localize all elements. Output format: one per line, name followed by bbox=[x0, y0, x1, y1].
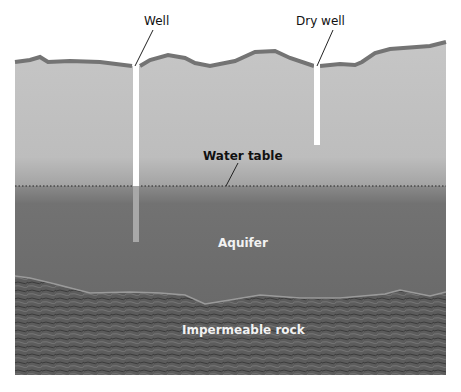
aquifer-label: Aquifer bbox=[218, 236, 268, 250]
dry-well-shaft bbox=[314, 64, 320, 145]
well-shaft bbox=[133, 64, 139, 186]
dry-well-label: Dry well bbox=[296, 14, 345, 28]
impermeable-rock-label: Impermeable rock bbox=[182, 323, 305, 337]
well-shaft-submerged bbox=[133, 186, 139, 242]
water-table-label: Water table bbox=[203, 149, 283, 163]
dry-well-leader-line bbox=[317, 30, 333, 66]
well-label: Well bbox=[144, 14, 169, 28]
